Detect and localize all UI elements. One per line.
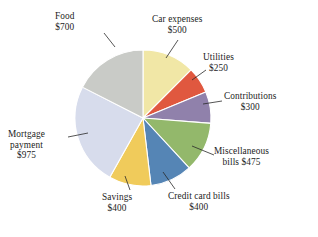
pie-label-food-name: Food	[55, 11, 75, 22]
pie-label-credit-card-bills-name: Credit card bills	[168, 191, 230, 202]
pie-chart-svg	[0, 0, 318, 237]
leader-line-food	[104, 33, 115, 47]
pie-label-savings-value: $400	[102, 203, 132, 214]
pie-label-miscellaneous-bills-name: Miscellaneous	[214, 146, 269, 157]
pie-label-miscellaneous-bills-value: bills $475	[214, 157, 269, 168]
pie-label-mortgage-payment-value: $975	[8, 150, 45, 161]
pie-label-contributions-name: Contributions	[224, 91, 276, 102]
pie-label-utilities-value: $250	[203, 63, 234, 74]
pie-label-car-expenses-value: $500	[152, 25, 203, 36]
pie-label-mortgage-payment-name2: payment	[8, 140, 45, 151]
pie-label-car-expenses: Car expenses $500	[152, 14, 203, 35]
pie-label-savings-name: Savings	[102, 192, 132, 203]
pie-label-mortgage-payment-name1: Mortgage	[8, 129, 45, 140]
leader-line-car	[166, 40, 178, 58]
pie-label-contributions-value: $300	[224, 102, 276, 113]
pie-label-utilities-name: Utilities	[203, 52, 234, 63]
pie-label-car-expenses-name: Car expenses	[152, 14, 203, 25]
pie-slices-group	[75, 50, 211, 186]
pie-label-contributions: Contributions $300	[224, 91, 276, 112]
pie-label-utilities: Utilities $250	[203, 52, 234, 73]
pie-label-food: Food $700	[55, 11, 75, 32]
pie-label-credit-card-bills: Credit card bills $400	[168, 191, 230, 212]
pie-label-savings: Savings $400	[102, 192, 132, 213]
pie-label-miscellaneous-bills: Miscellaneous bills $475	[214, 146, 269, 167]
pie-chart-figure: Food $700 Car expenses $500 Utilities $2…	[0, 0, 318, 237]
pie-label-mortgage-payment: Mortgage payment $975	[8, 129, 45, 161]
pie-label-credit-card-bills-value: $400	[168, 202, 230, 213]
pie-label-food-value: $700	[55, 22, 75, 33]
